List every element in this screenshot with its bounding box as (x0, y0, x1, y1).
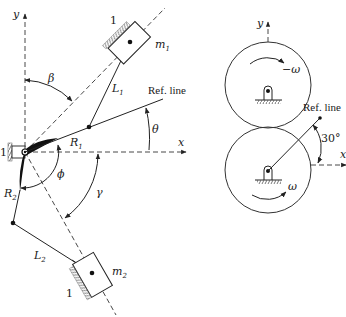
bottom-gear-rotation-arrow (252, 192, 286, 199)
bottom-gear-ground-hatch (257, 180, 281, 184)
mass-m2 (68, 252, 112, 299)
y-axis-label-right: y (256, 17, 264, 30)
phi-label: ϕ (57, 168, 65, 181)
theta-arc (146, 108, 150, 150)
pivot-ground-hatch (8, 143, 12, 161)
x-axis-label-right: x (340, 148, 346, 161)
angle-label-30: 30° (321, 132, 341, 145)
bottom-gear-omega-label: ω (288, 180, 297, 193)
x-axis-label-left: x (178, 136, 185, 149)
m1-label: m1 (155, 38, 170, 53)
ref-line-label-right: Ref. line (303, 101, 341, 113)
m1-center (128, 40, 133, 45)
right-gear-diagram: y −ω ω Ref. line x 30° (225, 17, 346, 213)
beta-label: β (47, 72, 54, 85)
m1-ground-label: 1 (110, 14, 117, 27)
R2-label: R2 (3, 187, 17, 202)
L2-label: L2 (33, 249, 46, 264)
ref-line-left (25, 99, 163, 152)
m2-center (90, 271, 95, 276)
top-gear-ground-hatch (257, 100, 281, 104)
ref-line-right (268, 118, 320, 171)
ref-line-label-left: Ref. line (148, 84, 186, 96)
gamma-label: γ (96, 186, 103, 199)
y-axis-label-left: y (12, 8, 20, 21)
pivot-ground-label: 1 (0, 146, 7, 159)
ref-line-end-dot (318, 116, 322, 120)
R1-label: R1 (69, 136, 83, 151)
engine-balancing-diagram: y x 1 Ref. line R1 L1 m1 1 (0, 0, 346, 317)
theta-label: θ (152, 123, 159, 136)
gamma-arc (65, 154, 98, 218)
top-gear (225, 42, 311, 128)
m2-label: m2 (112, 265, 127, 280)
L1-label: L1 (111, 82, 124, 97)
m2-ground-label: 1 (66, 287, 73, 300)
top-gear-omega-label: −ω (282, 63, 300, 76)
left-mechanism-diagram: y x 1 Ref. line R1 L1 m1 1 (0, 8, 186, 315)
m1-slide-axis (25, 8, 165, 152)
top-gear-rotation-arrow (250, 58, 284, 64)
top-gear-center (266, 89, 270, 93)
